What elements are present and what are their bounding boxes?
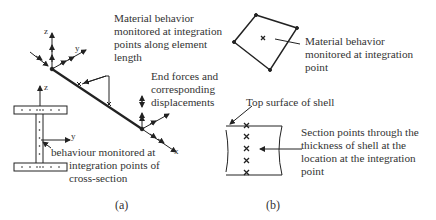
figure: z y x z y Material behavior monitored at… <box>0 0 436 220</box>
section-points-label: Section points through the thickness of … <box>301 126 419 178</box>
end-forces-label: End forces and corresponding displacemen… <box>151 70 218 109</box>
material-behavior-label: Material behavior monitored at integrati… <box>114 12 222 64</box>
x-axis-label: x <box>174 146 179 156</box>
shell-section <box>226 106 302 175</box>
shell-quad <box>233 14 301 72</box>
section-y-label: y <box>71 131 76 141</box>
top-surface-label: Top surface of shell <box>246 96 334 109</box>
section-behaviour-label: behaviour monitored at integration point… <box>51 146 160 185</box>
y-axis-label: y <box>75 43 80 53</box>
z-axis-label: z <box>44 26 48 36</box>
section-z-label: z <box>44 82 48 92</box>
caption-b: (b) <box>266 198 280 213</box>
caption-a: (a) <box>115 198 128 213</box>
shell-material-label: Material behavior monitored at integrati… <box>305 35 413 74</box>
